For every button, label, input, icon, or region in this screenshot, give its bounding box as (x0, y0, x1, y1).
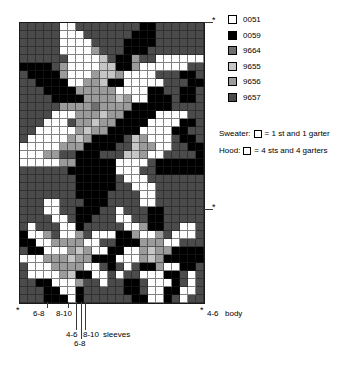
chart-cell (52, 87, 60, 95)
chart-cell (76, 231, 84, 239)
chart-cell (44, 23, 52, 31)
chart-cell (164, 247, 172, 255)
chart-cell (164, 127, 172, 135)
chart-cell (68, 199, 76, 207)
chart-cell (100, 135, 108, 143)
chart-cell (132, 199, 140, 207)
chart-cell (108, 103, 116, 111)
color-legend: 005100599664965596569657 (228, 15, 261, 108)
chart-cell (28, 31, 36, 39)
chart-cell (60, 231, 68, 239)
chart-cell (68, 63, 76, 71)
chart-cell (172, 175, 180, 183)
chart-cell (36, 279, 44, 287)
chart-cell (140, 23, 148, 31)
chart-cell (60, 175, 68, 183)
chart-cell (164, 199, 172, 207)
chart-cell (188, 63, 196, 71)
chart-cell (36, 39, 44, 47)
tick-8-10 (68, 302, 69, 308)
chart-cell (124, 167, 132, 175)
chart-cell (60, 199, 68, 207)
chart-cell (76, 223, 84, 231)
chart-cell (84, 119, 92, 127)
chart-cell (156, 215, 164, 223)
chart-cell (196, 95, 204, 103)
chart-cell (188, 167, 196, 175)
chart-cell (28, 111, 36, 119)
chart-cell (132, 191, 140, 199)
chart-cell (20, 175, 28, 183)
chart-cell (20, 127, 28, 135)
chart-cell (132, 231, 140, 239)
chart-cell (68, 119, 76, 127)
chart-cell (188, 143, 196, 151)
chart-cell (84, 39, 92, 47)
chart-cell (172, 183, 180, 191)
legend-item: 9664 (228, 46, 261, 55)
chart-cell (68, 143, 76, 151)
chart-cell (172, 207, 180, 215)
chart-cell (44, 151, 52, 159)
chart-cell (172, 23, 180, 31)
chart-cell (20, 63, 28, 71)
chart-cell (156, 119, 164, 127)
chart-cell (36, 191, 44, 199)
chart-cell (196, 39, 204, 47)
chart-cell (44, 247, 52, 255)
legend-swatch (228, 15, 237, 24)
chart-cell (148, 87, 156, 95)
chart-cell (76, 279, 84, 287)
chart-cell (140, 111, 148, 119)
chart-cell (76, 247, 84, 255)
chart-cell (148, 255, 156, 263)
chart-cell (28, 295, 36, 303)
chart-cell (92, 103, 100, 111)
chart-cell (36, 143, 44, 151)
chart-cell (180, 23, 188, 31)
chart-cell (140, 95, 148, 103)
chart-cell (28, 87, 36, 95)
chart-cell (44, 143, 52, 151)
chart-cell (164, 239, 172, 247)
chart-cell (116, 183, 124, 191)
chart-cell (92, 279, 100, 287)
chart-cell (68, 151, 76, 159)
chart-cell (180, 287, 188, 295)
chart-cell (100, 183, 108, 191)
chart-cell (76, 63, 84, 71)
chart-cell (68, 87, 76, 95)
chart-cell (172, 55, 180, 63)
chart-cell (36, 167, 44, 175)
legend-swatch (228, 77, 237, 86)
chart-cell (60, 263, 68, 271)
chart-cell (44, 95, 52, 103)
chart-cell (196, 71, 204, 79)
chart-cell (132, 255, 140, 263)
chart-cell (156, 263, 164, 271)
chart-cell (132, 47, 140, 55)
chart-cell (92, 119, 100, 127)
chart-cell (76, 119, 84, 127)
chart-cell (20, 295, 28, 303)
chart-cell (108, 183, 116, 191)
chart-cell (36, 71, 44, 79)
chart-cell (44, 79, 52, 87)
chart-cell (164, 279, 172, 287)
chart-cell (188, 135, 196, 143)
chart-cell (84, 191, 92, 199)
chart-cell (116, 103, 124, 111)
chart-cell (100, 175, 108, 183)
chart-cell (84, 127, 92, 135)
chart-cell (20, 79, 28, 87)
chart-cell (140, 279, 148, 287)
chart-cell (196, 119, 204, 127)
chart-cell (156, 271, 164, 279)
chart-cell (180, 55, 188, 63)
chart-cell (52, 79, 60, 87)
chart-cell (76, 207, 84, 215)
chart-cell (116, 111, 124, 119)
chart-cell (68, 175, 76, 183)
chart-cell (180, 263, 188, 271)
chart-cell (84, 31, 92, 39)
